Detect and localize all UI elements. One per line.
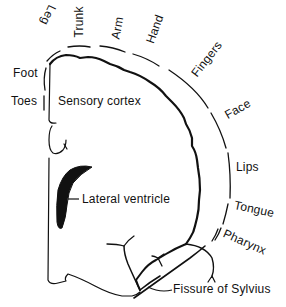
arc-tongue	[223, 204, 228, 224]
label-lips: Lips	[236, 161, 259, 173]
label-sensory-cortex: Sensory cortex	[58, 95, 141, 107]
label-fissure-of-sylvius: Fissure of Sylvius	[173, 283, 271, 295]
label-lateral-ventricle: Lateral ventricle	[82, 193, 170, 205]
label-arm: Arm	[109, 16, 125, 40]
label-trunk: Trunk	[73, 6, 85, 37]
arc-lips	[228, 153, 230, 198]
arc-arm	[100, 46, 125, 52]
arc-trunk	[68, 46, 90, 47]
arc-face	[211, 113, 226, 148]
arc-hand	[133, 54, 159, 66]
arc-foot	[44, 68, 46, 90]
fissure-pointer	[148, 287, 172, 291]
brain-section-diagram	[0, 0, 286, 307]
label-toes: Toes	[11, 95, 37, 107]
label-foot: Foot	[13, 67, 38, 79]
